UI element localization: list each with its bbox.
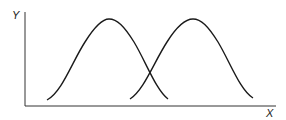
y-axis-label: Y — [12, 9, 20, 21]
left-bell-curve — [47, 19, 168, 100]
x-axis-label: X — [265, 107, 274, 119]
bell-curves-diagram: Y X — [0, 0, 286, 120]
right-bell-curve — [130, 19, 253, 99]
